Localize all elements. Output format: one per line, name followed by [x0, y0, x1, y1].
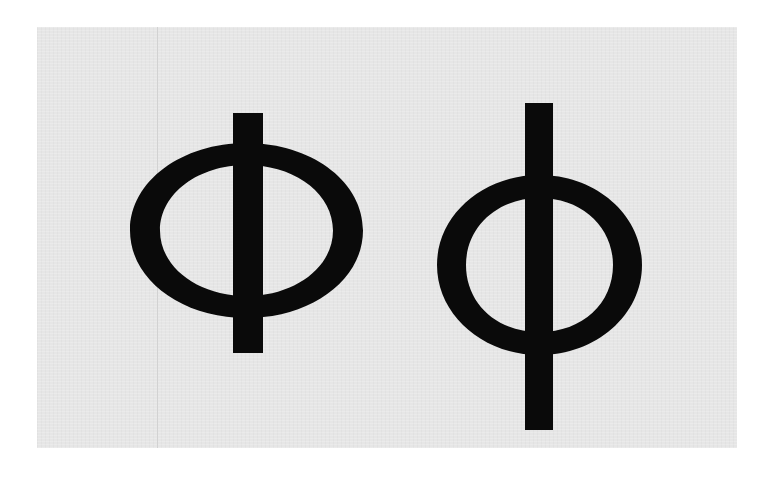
lowercase-phi-glyph: φ: [437, 103, 642, 430]
uppercase-phi-glyph: Φ: [130, 113, 363, 353]
uppercase-phi-icon: [130, 113, 363, 353]
glyph-panel: Φ φ: [37, 27, 737, 448]
lowercase-phi-icon: [437, 103, 642, 430]
